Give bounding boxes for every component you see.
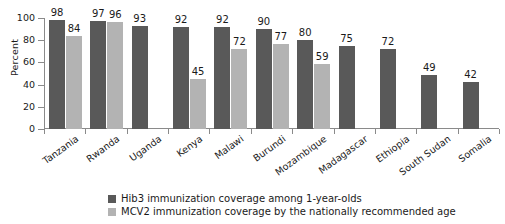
legend-label: Hib3 immunization coverage among 1-year-…: [121, 194, 362, 204]
bar-group: 9272: [209, 18, 250, 129]
bar: 80: [297, 40, 313, 129]
legend-swatch-icon: [108, 208, 116, 216]
bar-group: 8059: [292, 18, 333, 129]
legend-item[interactable]: MCV2 immunization coverage by the nation…: [108, 205, 456, 218]
bar-group: 49: [416, 18, 457, 129]
bar-value-label: 45: [192, 67, 205, 77]
y-axis-tick-label: 0: [29, 123, 35, 134]
bar-value-label: 92: [216, 15, 229, 25]
bar-chart: Percent 020406080100 9884979693924592729…: [0, 0, 505, 224]
bar-value-label: 96: [109, 10, 122, 20]
y-axis-tick-label: 60: [23, 56, 35, 67]
legend-label: MCV2 immunization coverage by the nation…: [121, 207, 456, 217]
y-axis-title: Percent: [9, 18, 20, 98]
bar-group: 9077: [251, 18, 292, 129]
bar: 72: [380, 49, 396, 129]
bar-group: 72: [375, 18, 416, 129]
bar: 98: [49, 20, 65, 129]
legend-swatch-icon: [108, 195, 116, 203]
bar: 92: [214, 27, 230, 129]
x-axis-tick: [416, 129, 417, 134]
bar: 92: [173, 27, 189, 129]
bar: 72: [231, 49, 247, 129]
bar-value-label: 72: [382, 37, 395, 47]
bar-value-label: 42: [464, 70, 477, 80]
bar-group: 9884: [44, 18, 85, 129]
bar-value-label: 49: [423, 63, 436, 73]
bar: 49: [421, 75, 437, 129]
bar: 93: [132, 26, 148, 129]
bar-value-label: 59: [316, 52, 329, 62]
x-axis-tick: [334, 129, 335, 134]
bar: 84: [66, 36, 82, 129]
x-axis-tick: [499, 129, 500, 134]
bar-group: 75: [334, 18, 375, 129]
bar-value-label: 98: [51, 8, 64, 18]
chart-legend: Hib3 immunization coverage among 1-year-…: [108, 192, 456, 218]
bar-value-label: 80: [299, 28, 312, 38]
bar: 90: [256, 29, 272, 129]
y-axis-tick-label: 40: [23, 79, 35, 90]
x-axis-tick: [375, 129, 376, 134]
x-axis-tick: [44, 129, 45, 134]
bar-value-label: 77: [274, 32, 287, 42]
x-axis-tick: [168, 129, 169, 134]
bar-value-label: 72: [233, 37, 246, 47]
bar: 97: [90, 21, 106, 129]
bar-group: 93: [127, 18, 168, 129]
x-axis-tick: [127, 129, 128, 134]
bar: 45: [190, 79, 206, 129]
bar-group: 9245: [168, 18, 209, 129]
x-axis-tick: [209, 129, 210, 134]
bar-value-label: 92: [175, 15, 188, 25]
x-axis-tick: [251, 129, 252, 134]
legend-item[interactable]: Hib3 immunization coverage among 1-year-…: [108, 192, 456, 205]
bar-group: 42: [458, 18, 499, 129]
x-axis-tick: [85, 129, 86, 134]
y-axis-tick-label: 100: [17, 12, 35, 23]
bar: 77: [273, 44, 289, 129]
bar: 75: [339, 46, 355, 129]
y-axis-tick-label: 20: [23, 101, 35, 112]
x-axis-tick: [292, 129, 293, 134]
bar-value-label: 93: [133, 14, 146, 24]
x-axis-tick: [458, 129, 459, 134]
bar: 42: [463, 82, 479, 129]
bar-value-label: 90: [257, 17, 270, 27]
bar-value-label: 97: [92, 9, 105, 19]
bar-group: 9796: [85, 18, 126, 129]
bar-value-label: 84: [68, 24, 81, 34]
bar: 59: [314, 64, 330, 129]
plot-area: 020406080100 988497969392459272907780597…: [44, 18, 499, 129]
y-axis-tick-label: 80: [23, 34, 35, 45]
bar: 96: [107, 22, 123, 129]
bar-value-label: 75: [340, 34, 353, 44]
